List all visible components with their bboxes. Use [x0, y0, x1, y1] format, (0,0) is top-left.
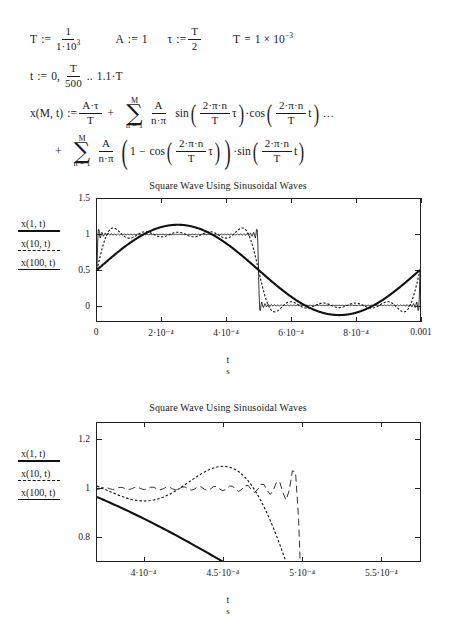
legend-line-swatch: [18, 250, 60, 251]
series-curve: [97, 466, 420, 561]
y-tick-mark: [96, 270, 102, 271]
y-tick-label: 0: [54, 301, 90, 311]
sin-argument-fraction-2: 2·π·n T: [262, 138, 292, 165]
plot-frame: [96, 422, 421, 562]
chart-legend: x(1, t) x(10, t) x(100, t): [18, 448, 60, 506]
fourier-assign: :=: [67, 107, 77, 119]
series-curve: [97, 229, 420, 310]
y-tick-label: 0.5: [54, 265, 90, 275]
summation-symbol-1: M ∑ n = 1: [126, 97, 143, 130]
legend-label: x(10, t): [18, 238, 60, 249]
legend-item: x(10, t): [18, 468, 60, 481]
tau-assign: :=: [176, 33, 186, 45]
y-tick-label: 1.5: [54, 193, 90, 203]
sin-function-2: sin: [237, 145, 251, 157]
range-start: 0,: [51, 70, 60, 82]
range-assign: :=: [37, 70, 47, 82]
range-end: 1.1·T: [97, 70, 123, 82]
amplitude-value: 1: [142, 33, 148, 45]
amplitude-symbol: A: [115, 33, 123, 45]
x-tick-mark: [226, 317, 227, 322]
x-axis-unit: s: [0, 606, 456, 616]
time-symbol: t: [30, 70, 33, 82]
y-tick-mark: [415, 439, 421, 440]
x-tick-mark: [144, 557, 145, 562]
one-minus-term: 1 −: [130, 145, 145, 157]
y-tick-mark: [415, 488, 421, 489]
chart-title: Square Wave Using Sinusoidal Waves: [0, 402, 456, 413]
x-tick-mark: [421, 317, 422, 322]
period-eval-symbol: T: [233, 33, 240, 45]
series-curve: [97, 497, 420, 561]
range-step-fraction: T 500: [62, 63, 85, 90]
equation-fourier-line-2: + M ∑ n = 1 A n·π ( 1 − cos ( 2·π·n T τ …: [55, 135, 306, 168]
equation-definitions-line: T := 1 1·103 A := 1 τ := T 2 T = 1 × 10−…: [30, 26, 293, 53]
sin-function-1: sin: [175, 107, 189, 119]
legend-line-swatch: [18, 499, 60, 500]
legend-item: x(1, t): [18, 448, 60, 462]
x-tick-mark: [381, 557, 382, 562]
y-tick-mark: [415, 537, 421, 538]
formula-block: T := 1 1·103 A := 1 τ := T 2 T = 1 × 10−…: [0, 0, 456, 178]
plus-operator: +: [108, 107, 115, 119]
period-fraction: 1 1·103: [53, 26, 83, 53]
y-tick-mark: [96, 439, 102, 440]
y-tick-mark: [415, 198, 421, 199]
coefficient-fraction-2: A n·π: [96, 138, 117, 165]
legend-item: x(10, t): [18, 238, 60, 251]
tau-fraction: T 2: [188, 26, 201, 53]
x-tick-label: 6·10⁻⁴: [278, 327, 304, 338]
plot-curves: [97, 199, 420, 321]
x-tick-mark: [161, 198, 162, 203]
period-symbol: T: [30, 33, 37, 45]
x-tick-mark: [161, 317, 162, 322]
x-tick-mark: [144, 422, 145, 427]
cos-argument-tail-1: t: [308, 107, 311, 119]
sin-argument-fraction-1: 2·π·n T: [200, 100, 230, 127]
cos-function-1: cos: [249, 107, 265, 119]
y-tick-mark: [96, 198, 102, 199]
x-tick-label: 2·10⁻⁴: [148, 327, 174, 338]
chart-title: Square Wave Using Sinusoidal Waves: [0, 180, 456, 191]
range-ellipsis: ..: [87, 70, 93, 82]
y-tick-label: 1.2: [54, 434, 90, 444]
cos-argument-fraction-2: 2·π·n T: [176, 138, 206, 165]
x-tick-label: 8·10⁻⁴: [343, 327, 369, 338]
equation-fourier-line-1: x(M, t) := A·τ T + M ∑ n = 1 A n·π sin (…: [30, 97, 335, 130]
y-tick-mark: [96, 537, 102, 538]
x-tick-mark: [302, 422, 303, 427]
x-tick-label: 5.5·10⁻⁴: [365, 567, 398, 578]
x-tick-label: 4.5·10⁻⁴: [206, 567, 239, 578]
y-tick-mark: [96, 234, 102, 235]
coefficient-fraction-1: A n·π: [148, 100, 169, 127]
equation-range-line: t := 0, T 500 .. 1.1·T: [30, 63, 123, 90]
x-tick-label: 0: [94, 327, 99, 337]
cos-function-2: cos: [150, 145, 166, 157]
y-tick-mark: [415, 306, 421, 307]
x-tick-mark: [223, 422, 224, 427]
summation-symbol-2: M ∑ n = 1: [74, 135, 91, 168]
continuation-ellipsis: ...: [323, 107, 334, 119]
legend-line-swatch: [18, 480, 60, 481]
x-tick-mark: [421, 198, 422, 203]
y-tick-mark: [415, 270, 421, 271]
plot-curves: [97, 423, 420, 561]
legend-label: x(10, t): [18, 468, 60, 479]
x-tick-label: 4·10⁻⁴: [131, 567, 157, 578]
assign-operator: :=: [41, 33, 51, 45]
x-tick-mark: [381, 422, 382, 427]
legend-line-swatch: [18, 460, 60, 462]
tau-symbol: τ: [168, 33, 173, 45]
x-tick-mark: [291, 198, 292, 203]
x-axis-label: t: [0, 354, 456, 365]
dc-term-fraction: A·τ T: [79, 100, 101, 127]
function-lhs: x(M, t): [30, 107, 63, 119]
x-tick-label: 5·10⁻⁴: [289, 567, 315, 578]
cos-argument-fraction-1: 2·π·n T: [276, 100, 306, 127]
chart-square-wave-zoomed: Square Wave Using Sinusoidal Waves x(1, …: [0, 400, 456, 630]
plot-frame: [96, 198, 421, 322]
y-tick-label: 1: [54, 483, 90, 493]
y-tick-label: 1: [54, 229, 90, 239]
x-tick-mark: [96, 317, 97, 322]
period-eval-value: 1 × 10−3: [255, 33, 293, 45]
